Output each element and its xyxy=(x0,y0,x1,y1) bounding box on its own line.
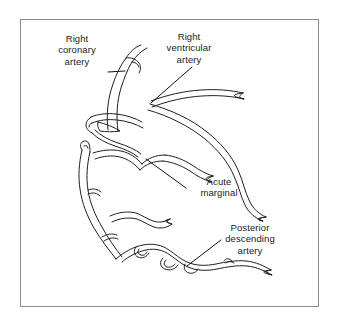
figure-root: Right coronary artery Right ventricular … xyxy=(0,0,339,322)
label-right-ventricular-artery: Right ventricular artery xyxy=(153,31,225,65)
right-ventricular-artery-vessel xyxy=(151,90,244,107)
label-line: marginal xyxy=(188,187,250,198)
right-marginal-trunk xyxy=(79,141,122,259)
label-line: descending xyxy=(211,233,289,244)
label-line: artery xyxy=(46,56,108,67)
label-line: Right xyxy=(153,31,225,42)
right-posterolateral-vessel xyxy=(148,104,266,221)
label-line: Posterior xyxy=(211,222,289,233)
mid-inferior-branch xyxy=(110,212,172,228)
label-posterior-descending-artery: Posterior descending artery xyxy=(211,222,289,256)
label-line: Right xyxy=(46,33,108,44)
label-right-coronary-artery: Right coronary artery xyxy=(46,33,108,67)
label-line: coronary xyxy=(46,44,108,55)
right-coronary-artery-vessel xyxy=(107,45,147,131)
mid-cavity-connector xyxy=(93,150,165,170)
label-line: artery xyxy=(211,245,289,256)
label-acute-marginal: Acute marginal xyxy=(188,176,250,199)
label-line: ventricular xyxy=(153,42,225,53)
leader-acute-marginal xyxy=(146,159,186,188)
leader-right-coronary-artery xyxy=(108,71,125,72)
label-line: Acute xyxy=(188,176,250,187)
label-line: artery xyxy=(153,54,225,65)
